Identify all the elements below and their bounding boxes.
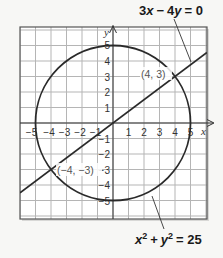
- y-axis-label: y: [103, 26, 109, 38]
- y-tick: −4: [99, 180, 111, 191]
- y-tick: 3: [104, 72, 110, 83]
- y-tick: 4: [104, 56, 110, 67]
- point-label-4-3: (4, 3): [140, 67, 172, 80]
- x-tick: 1: [126, 127, 132, 138]
- x-tick: 4: [172, 127, 178, 138]
- svg-text:(−4, −3): (−4, −3): [57, 164, 94, 176]
- line-equation-label: 3x−4y= 0: [139, 3, 203, 18]
- x-axis-label: x: [200, 125, 206, 137]
- x-tick: 2: [141, 127, 147, 138]
- circle-equation-label: x2+y2= 25: [134, 231, 202, 247]
- graph-figure: x y −5 −4 −3 −2 −1 1 2 3 4 5 5 4 3 2 1 −…: [0, 0, 223, 258]
- svg-text:(4, 3): (4, 3): [141, 68, 166, 80]
- y-tick: 1: [104, 103, 110, 114]
- y-tick: 2: [104, 87, 110, 98]
- point-label-neg4-neg3: (−4, −3): [56, 163, 102, 176]
- x-tick: −2: [74, 127, 86, 138]
- x-tick: −3: [59, 127, 71, 138]
- x-tick: 3: [157, 127, 163, 138]
- x-tick: −4: [43, 127, 55, 138]
- y-tick: −1: [99, 134, 111, 145]
- y-tick: −2: [99, 149, 111, 160]
